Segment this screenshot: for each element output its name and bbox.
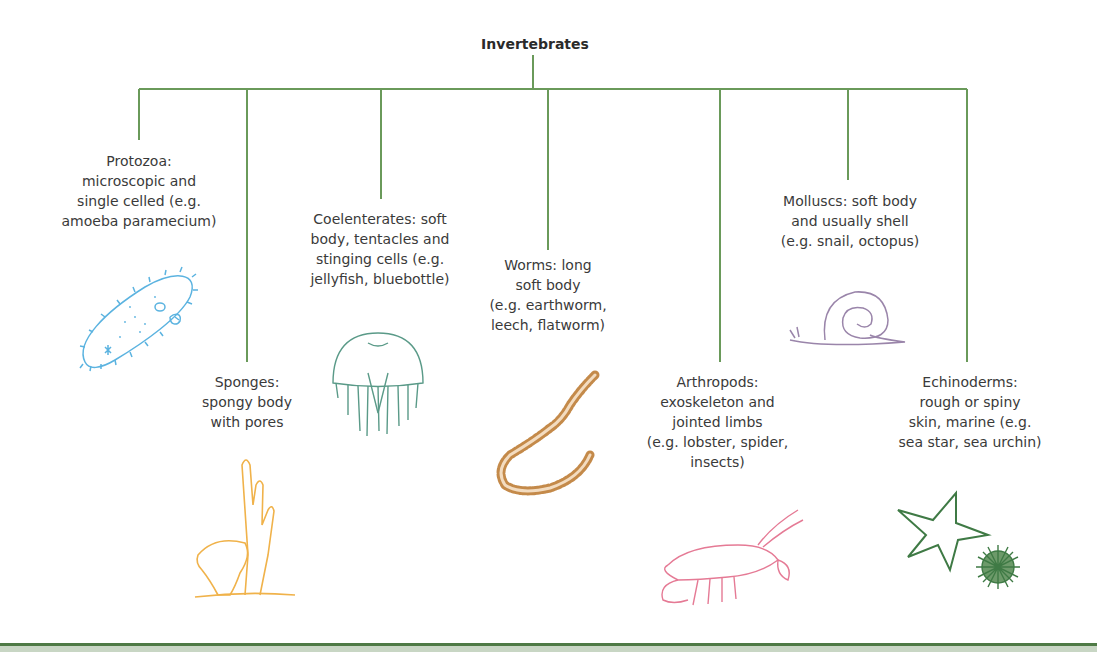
label-line: Echinoderms: (895, 372, 1045, 392)
group-label-molluscs: Molluscs: soft body and usually shell (e… (765, 191, 935, 251)
label-line: amoeba paramecium) (54, 211, 224, 231)
label-line: microscopic and (54, 171, 224, 191)
group-label-sponges: Sponges: spongy body with pores (187, 372, 307, 432)
label-line: single celled (e.g. (54, 191, 224, 211)
snail-icon (785, 280, 915, 355)
label-line: (e.g. lobster, spider, (630, 432, 805, 452)
label-line: spongy body (187, 392, 307, 412)
group-label-echinoderms: Echinoderms: rough or spiny skin, marine… (895, 372, 1045, 452)
label-line: stinging cells (e.g. (290, 249, 470, 269)
lobster-icon (648, 505, 808, 615)
bottom-border-bar (0, 643, 1097, 652)
jellyfish-icon (328, 328, 428, 438)
label-line: with pores (187, 412, 307, 432)
starfish-urchin-icon (888, 485, 1038, 595)
label-line: soft body (478, 275, 618, 295)
label-line: exoskeleton and (630, 392, 805, 412)
label-line: (e.g. snail, octopus) (765, 231, 935, 251)
worm-icon (490, 370, 605, 500)
group-label-coelenterates: Coelenterates: soft body, tentacles and … (290, 209, 470, 289)
label-line: Protozoa: (54, 151, 224, 171)
label-line: Arthropods: (630, 372, 805, 392)
label-line: rough or spiny (895, 392, 1045, 412)
label-line: and usually shell (765, 211, 935, 231)
label-line: jointed limbs (630, 412, 805, 432)
label-line: body, tentacles and (290, 229, 470, 249)
label-line: Coelenterates: soft (290, 209, 470, 229)
label-line: jellyfish, bluebottle) (290, 269, 470, 289)
label-line: (e.g. earthworm, (478, 295, 618, 315)
label-line: Sponges: (187, 372, 307, 392)
label-line: insects) (630, 452, 805, 472)
group-label-worms: Worms: long soft body (e.g. earthworm, l… (478, 255, 618, 335)
label-line: Molluscs: soft body (765, 191, 935, 211)
label-line: sea star, sea urchin) (895, 432, 1045, 452)
label-line: skin, marine (e.g. (895, 412, 1045, 432)
label-line: Worms: long (478, 255, 618, 275)
label-line: leech, flatworm) (478, 315, 618, 335)
group-label-arthropods: Arthropods: exoskeleton and jointed limb… (630, 372, 805, 472)
paramecium-icon (75, 262, 205, 377)
sponge-icon (190, 455, 300, 605)
group-label-protozoa: Protozoa: microscopic and single celled … (54, 151, 224, 231)
